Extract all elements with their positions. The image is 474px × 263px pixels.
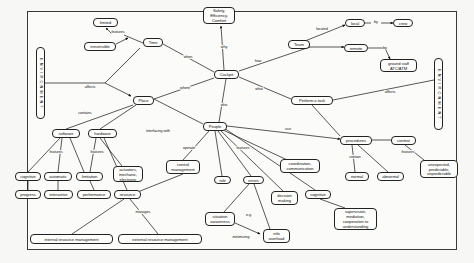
- node-interactive: interactive: [44, 190, 73, 199]
- node-people: People: [203, 122, 227, 131]
- node-irreversible: irreversible: [84, 42, 116, 51]
- edge-label-minimizing: minimizing: [232, 235, 250, 239]
- edge-label-by-crew: by: [374, 20, 379, 24]
- edge-label-features-software: features: [49, 150, 63, 154]
- node-role: role: [214, 176, 231, 184]
- edge-label-operate: operate: [182, 146, 195, 150]
- node-resource: resource: [114, 190, 141, 199]
- edge-label-located: located: [316, 27, 329, 31]
- node-supervision-mediation-cooperation: supervision, mediation, cooperation to u…: [334, 208, 377, 230]
- edge-label-affects-right: affects: [384, 90, 395, 94]
- edge-label-why: why: [220, 45, 227, 49]
- edge-label-features-time: features: [111, 30, 125, 34]
- edge-label-features-context: features: [401, 150, 415, 154]
- node-ground-staff: ground staff ATC/ATM: [380, 59, 417, 72]
- edge-label-where: where: [180, 86, 191, 90]
- node-crew: crew: [393, 19, 413, 27]
- node-decision-making: decision making: [271, 191, 298, 205]
- edge-label-when: when: [183, 55, 193, 59]
- node-progress: progress: [15, 190, 41, 199]
- node-abnormal: abnormal: [377, 172, 404, 181]
- node-time: Time: [143, 38, 163, 47]
- concept-map-canvas: E N V I R O N M E N T E N V I R O N M E …: [0, 0, 474, 263]
- node-errors: errors: [243, 176, 264, 184]
- edge-label-who: who: [220, 103, 228, 107]
- node-context: context: [391, 136, 416, 145]
- node-limitation: limitation: [76, 172, 103, 181]
- edge-label-use: use: [285, 127, 292, 131]
- node-external-resource-management: external resource management: [118, 234, 202, 244]
- node-internal-resource-management: internal resource management: [30, 234, 113, 244]
- edge-label-contains: contains: [78, 111, 92, 115]
- node-control-management: control management: [166, 160, 200, 174]
- node-situation-awareness: situation awareness: [205, 212, 235, 226]
- node-cognitive-software: cognitive: [15, 172, 41, 181]
- edge-label-features-people: features: [236, 146, 250, 150]
- node-limited: limited: [93, 18, 118, 27]
- node-unexpected-predictable-unpredictable: unexpected, predictable, unpredictable: [420, 160, 458, 178]
- node-automatic: automatic: [44, 172, 72, 181]
- node-place: Place: [133, 96, 154, 105]
- node-procedures: procedures: [340, 136, 372, 145]
- node-software: software: [52, 129, 80, 138]
- node-hardware: hardware: [88, 129, 117, 138]
- node-cockpit: Cockpit: [214, 70, 239, 79]
- node-remote: remote: [344, 44, 368, 52]
- node-local: local: [345, 19, 365, 27]
- node-safety-efficiency-comfort: Safety, Efficiency, Comfort: [203, 7, 235, 24]
- edge-label-affects-left: affects: [84, 85, 95, 89]
- edge-label-manages: manages: [135, 210, 151, 214]
- node-environment-right: E N V I R O N M E N T: [434, 58, 443, 130]
- node-performance: performance: [77, 190, 111, 199]
- node-coordination-communication: coordination, communication: [280, 159, 320, 173]
- edge-label-interfacing-with: interfacing with: [146, 129, 171, 133]
- node-team: Team: [288, 40, 310, 49]
- node-info-overload: info overload: [263, 229, 290, 243]
- edge-label-what: what: [255, 87, 264, 91]
- edge-label-contain: contain: [349, 155, 362, 159]
- node-actuators-mechanic-electronic: actuators, mechanic, electronic: [113, 166, 143, 182]
- node-cognitive-people: cognitive: [305, 190, 331, 199]
- edge-label-how: how: [254, 59, 262, 63]
- node-perform-a-task: Perform a task: [291, 96, 333, 105]
- edge-label-by-ground-staff: by: [383, 46, 388, 50]
- node-environment-left: E N V I R O N M E N T: [36, 47, 45, 119]
- node-normal: normal: [345, 172, 369, 181]
- edge-label-eg: e.g.: [246, 213, 253, 217]
- edge-label-features-hardware: features: [90, 150, 104, 154]
